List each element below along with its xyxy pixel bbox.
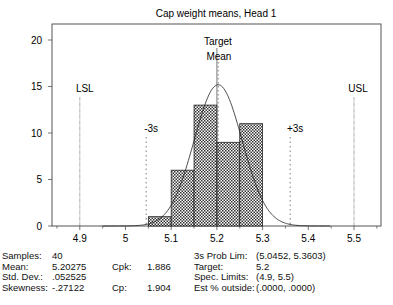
stat-label: Est % outside: (194, 283, 256, 294)
x-axis: 4.955.15.25.35.45.5 (57, 226, 377, 244)
stat-label: Cpk: (112, 262, 147, 273)
stats-right: 3s Prob Lim:(5.0452, 5.3603) Target:5.2 … (194, 251, 326, 293)
x-tick-label: 5 (123, 233, 129, 244)
histogram-bars (148, 105, 262, 226)
histogram-bar (240, 124, 263, 226)
stat-label: Spec. Limits: (194, 272, 256, 283)
x-tick-label: 5.1 (164, 233, 178, 244)
x-tick-label: 5.2 (210, 233, 224, 244)
x-tick-label: 5.4 (301, 233, 315, 244)
stat-label: 3s Prob Lim: (194, 251, 256, 262)
stat-value: .052525 (52, 271, 86, 282)
stat-value: (5.0452, 5.3603) (256, 250, 326, 261)
target-label: Target (204, 36, 232, 47)
y-tick-label: 15 (31, 81, 43, 92)
chart-title: Cap weight means, Head 1 (156, 8, 277, 19)
stat-value: 5.20275 (52, 261, 86, 272)
histogram-chart: Cap weight means, Head 1 05101520 4.955.… (0, 0, 393, 245)
stat-value: 1.886 (147, 261, 171, 272)
stat-label: Std. Dev.: (2, 272, 52, 283)
y-axis: 05101520 (31, 35, 52, 232)
stat-label: Cp: (112, 283, 147, 294)
histogram-bar (217, 142, 240, 226)
plus-3s-label: +3s (287, 123, 303, 134)
stat-value: 40 (52, 250, 63, 261)
stat-label: Skewness: (2, 283, 52, 294)
stats-middle: Cpk:1.886 Cp:1.904 (112, 262, 171, 294)
stat-row: Cpk:1.886 (112, 262, 171, 273)
x-tick-label: 4.9 (73, 233, 87, 244)
stat-row: Skewness:-.27122 (2, 283, 86, 294)
stats-left: Samples:40 Mean:5.20275 Std. Dev.:.05252… (2, 251, 86, 293)
stat-value: 5.2 (256, 261, 269, 272)
y-tick-label: 10 (31, 128, 43, 139)
histogram-bar (148, 217, 171, 226)
y-tick-label: 5 (36, 174, 42, 185)
stat-row: Cp:1.904 (112, 283, 171, 294)
stat-row: Est % outside:(.0000, .0000) (194, 283, 326, 294)
usl-label: USL (348, 83, 368, 94)
mean-label: Mean (206, 51, 231, 62)
y-tick-label: 0 (36, 221, 42, 232)
stat-value: 1.904 (147, 282, 171, 293)
minus-3s-label: -3s (144, 123, 158, 134)
x-tick-label: 5.5 (347, 233, 361, 244)
stat-value: -.27122 (52, 282, 84, 293)
stat-label: Samples: (2, 251, 52, 262)
histogram-bar (194, 105, 217, 226)
lsl-label: LSL (76, 83, 94, 94)
stat-value: (4.9, 5.5) (256, 271, 294, 282)
stat-value: (.0000, .0000) (256, 282, 315, 293)
x-tick-label: 5.3 (256, 233, 270, 244)
y-tick-label: 20 (31, 35, 43, 46)
